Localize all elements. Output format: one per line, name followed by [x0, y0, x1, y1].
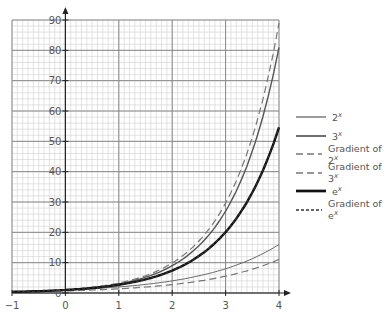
- tick-labels: 0102030405060708090−101234: [5, 15, 283, 312]
- x-tick-label: 3: [222, 300, 228, 311]
- legend-item: Gradient of ex: [296, 201, 386, 220]
- legend-label: Gradient of 3x: [328, 161, 386, 184]
- y-tick-label: 50: [49, 136, 62, 147]
- legend-label: Gradient of ex: [328, 198, 386, 221]
- legend-swatch-icon: [296, 114, 326, 120]
- x-axis-arrow-icon: [284, 290, 291, 296]
- legend-item: Gradient of 3x: [296, 164, 386, 183]
- x-tick-label: 4: [276, 300, 282, 311]
- x-tick-label: −1: [5, 300, 20, 311]
- legend-swatch-icon: [296, 133, 326, 139]
- x-tick-label: 1: [116, 300, 122, 311]
- legend: 2x3xGradient of 2xGradient of 3xexGradie…: [296, 108, 386, 219]
- x-tick-label: 0: [62, 300, 68, 311]
- y-tick-label: 10: [49, 257, 62, 268]
- x-tick-label: 2: [169, 300, 175, 311]
- legend-swatch-icon: [296, 170, 322, 176]
- legend-swatch-icon: [296, 188, 326, 194]
- y-tick-label: 90: [49, 15, 62, 26]
- legend-label: 3x: [332, 130, 342, 142]
- legend-swatch-icon: [296, 151, 322, 157]
- y-tick-label: 30: [49, 197, 62, 208]
- y-tick-label: 40: [49, 166, 62, 177]
- legend-label: ex: [332, 185, 342, 197]
- legend-label: 2x: [332, 111, 342, 123]
- y-tick-label: 80: [49, 45, 62, 56]
- y-tick-label: 70: [49, 75, 62, 86]
- y-tick-label: 20: [49, 227, 62, 238]
- y-tick-label: 60: [49, 106, 62, 117]
- minor-gridlines: [12, 20, 279, 293]
- legend-swatch-icon: [296, 207, 322, 213]
- legend-item: 2x: [296, 108, 386, 127]
- y-tick-label: 0: [55, 288, 61, 299]
- y-axis-arrow-icon: [62, 7, 68, 14]
